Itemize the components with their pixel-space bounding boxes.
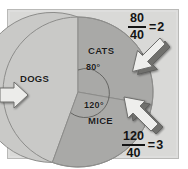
calculation-result: 2: [157, 20, 164, 34]
figure-canvas: DOGS CATS 80° 120° MICE 80 40 = 2 120 40…: [0, 0, 188, 169]
angle-label-mice: 120°: [84, 100, 104, 110]
equals-sign: =: [149, 20, 156, 34]
slice-label-cats: CATS: [88, 45, 114, 56]
slice-label-mice: MICE: [88, 115, 113, 126]
fraction-denominator: 40: [129, 28, 145, 42]
fraction-mice: 120 40: [122, 130, 145, 159]
slice-label-dogs: DOGS: [20, 73, 49, 84]
cats-arrow-icon: [133, 38, 171, 75]
fraction-numerator: 80: [129, 12, 145, 26]
calculation-mice: 120 40 = 3: [122, 130, 163, 159]
fraction-denominator: 40: [125, 146, 141, 160]
equals-sign: =: [148, 138, 155, 152]
angle-label-cats: 80°: [86, 62, 101, 72]
calculation-cats: 80 40 = 2: [128, 12, 164, 41]
calculation-result: 3: [156, 138, 163, 152]
fraction-numerator: 120: [122, 130, 145, 144]
fraction-cats: 80 40: [128, 12, 146, 41]
